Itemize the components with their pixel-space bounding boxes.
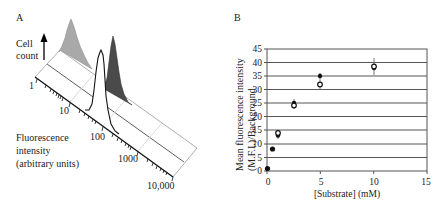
y-tick: 5: [257, 153, 262, 163]
series-open: [276, 64, 377, 135]
panel-b: B Mean fluorescence intensity (M.F.I.)/B…: [234, 12, 431, 200]
x-label-line3: (arbitrary units): [16, 158, 79, 170]
y-label-cell: Cell: [16, 38, 33, 49]
y-tick: 40: [253, 58, 263, 68]
data-point: [265, 166, 270, 171]
y-tick: 0: [257, 166, 262, 176]
x-tick: 10: [369, 177, 379, 187]
y-label-count: count: [16, 50, 38, 61]
x-tick-labels: 0 5 10 15: [266, 177, 431, 187]
error-bars: [278, 58, 374, 139]
histogram-middle-dark: [104, 36, 132, 105]
panel-a: A Cell count: [16, 12, 197, 191]
data-point: [318, 74, 322, 78]
y-tick: 45: [253, 44, 263, 54]
data-point: [372, 64, 377, 69]
x-tick: 0: [266, 177, 271, 187]
data-point: [292, 103, 297, 108]
x-label-line2: intensity: [16, 145, 50, 156]
figure: A Cell count: [0, 0, 441, 209]
x-tick-10000: 10,000: [147, 180, 175, 191]
panel-a-label: A: [16, 12, 24, 23]
x-tick-1: 1: [29, 80, 34, 91]
y-tick: 20: [253, 112, 263, 122]
data-point: [276, 131, 281, 136]
data-point: [270, 146, 275, 151]
x-tick: 5: [319, 177, 324, 187]
x-tick-100: 100: [90, 131, 105, 142]
y-tick: 35: [253, 71, 263, 81]
plot-frame: [267, 49, 427, 171]
x-axis-label: [Substrate] (mM): [314, 189, 380, 200]
x-tick-10: 10: [59, 105, 69, 116]
y-tick: 30: [253, 85, 263, 95]
series-filled: [265, 66, 376, 171]
data-point: [318, 82, 323, 87]
x-label-line1: Fluorescence: [16, 132, 69, 143]
x-tick-1000: 1000: [118, 153, 138, 164]
y-tick: 10: [253, 139, 263, 149]
cell-count-arrow-icon: [41, 33, 48, 60]
y-tick: 15: [253, 125, 263, 135]
panel-b-label: B: [234, 12, 241, 23]
gridlines: [267, 63, 427, 158]
y-label-line1: Mean fluorescence intensity: [234, 58, 245, 171]
y-tick: 25: [253, 98, 263, 108]
x-tick: 15: [421, 177, 431, 187]
